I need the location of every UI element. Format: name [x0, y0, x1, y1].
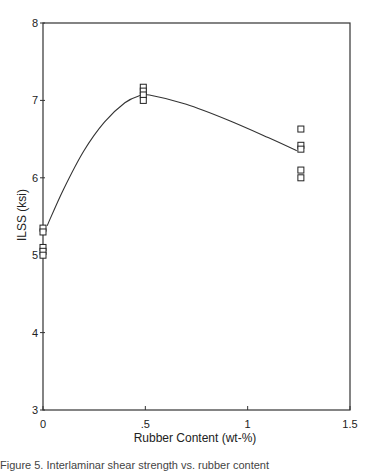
x-tick-label: 1 — [245, 418, 251, 430]
plot-border — [43, 23, 350, 410]
x-tick-label: .5 — [141, 418, 150, 430]
data-point-square — [298, 175, 304, 181]
trend-curve — [47, 94, 297, 226]
y-tick-label: 7 — [32, 94, 38, 106]
y-tick-label: 5 — [32, 249, 38, 261]
plot-frame — [43, 23, 350, 410]
y-tick-label: 8 — [32, 17, 38, 29]
y-tick-label: 6 — [32, 172, 38, 184]
x-tick-label: 0 — [40, 418, 46, 430]
data-markers — [40, 84, 304, 258]
x-axis-title: Rubber Content (wt-%) — [134, 431, 257, 445]
x-tick-label: 1.5 — [342, 418, 357, 430]
data-point-square — [40, 229, 46, 235]
figure-caption: Figure 5. Interlaminar shear strength vs… — [0, 459, 269, 471]
y-tick-label: 3 — [32, 404, 38, 416]
trend-curve-path — [47, 94, 297, 226]
data-point-square — [140, 97, 146, 103]
y-tick-label: 4 — [32, 327, 38, 339]
data-point-square — [298, 146, 304, 152]
y-axis-title: ILSS (ksi) — [15, 189, 29, 241]
data-point-square — [298, 167, 304, 173]
data-point-square — [298, 126, 304, 132]
data-point-square — [40, 252, 46, 258]
